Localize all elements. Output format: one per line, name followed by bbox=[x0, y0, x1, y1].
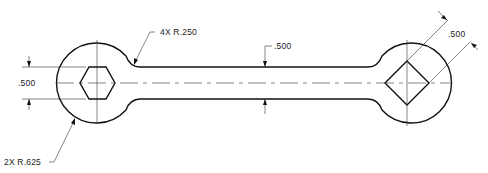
wrench-drawing: .500 .500 4X R.250 2X R.625 bbox=[0, 0, 488, 173]
shaft-dimension: .500 bbox=[263, 41, 291, 114]
square-dimension-label: .500 bbox=[448, 29, 465, 39]
drawing-canvas: .500 .500 4X R.250 2X R.625 bbox=[0, 0, 488, 173]
fillet-radius-label: 4X R.250 bbox=[160, 27, 197, 37]
fillet-leader: 4X R.250 bbox=[134, 27, 197, 65]
end-radius-label: 2X R.625 bbox=[4, 157, 41, 167]
hex-dimension: .500 bbox=[18, 56, 86, 110]
hex-dimension-label: .500 bbox=[18, 78, 35, 88]
end-radius-leader: 2X R.625 bbox=[4, 118, 75, 167]
shaft-dimension-label: .500 bbox=[274, 41, 291, 51]
